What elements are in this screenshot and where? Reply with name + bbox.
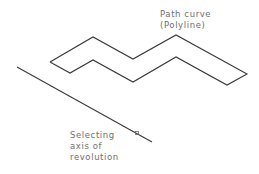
axis-label-line-3: revolution xyxy=(70,152,119,163)
drawing-canvas: Path curve (Polyline) Selecting axis of … xyxy=(0,0,259,174)
axis-label-line-1: Selecting xyxy=(70,130,119,141)
path-curve-polyline[interactable] xyxy=(50,35,247,85)
axis-label-line-2: axis of xyxy=(70,141,119,152)
path-curve-label-line-2: (Polyline) xyxy=(160,20,211,31)
axis-selection-label: Selecting axis of revolution xyxy=(70,130,119,162)
path-curve-label-line-1: Path curve xyxy=(160,9,211,20)
drawing-svg xyxy=(0,0,259,174)
path-curve-label: Path curve (Polyline) xyxy=(160,9,211,30)
